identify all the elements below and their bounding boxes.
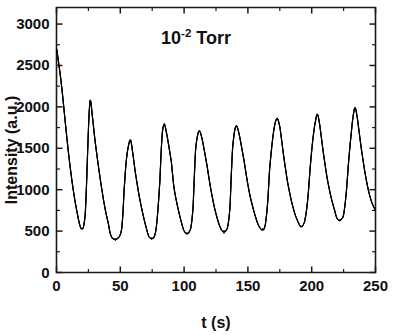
y-tick-label: 1500 (16, 139, 49, 156)
pressure-annotation: 10-2 Torr (161, 27, 231, 48)
x-axis-label: t (s) (201, 314, 230, 331)
y-tick-label: 2500 (16, 56, 49, 73)
oscillation-chart: 050100150200250 050010001500200025003000… (0, 0, 394, 335)
y-tick-label: 1000 (16, 181, 49, 198)
y-tick-label: 3000 (16, 15, 49, 32)
y-tick-label: 0 (41, 264, 49, 281)
y-tick-label: 500 (24, 222, 49, 239)
x-tick-label: 150 (235, 277, 260, 294)
y-axis-label: Intensity (a.u.) (3, 96, 20, 204)
figure-panel: 050100150200250 050010001500200025003000… (0, 0, 394, 335)
x-tick-label: 250 (363, 277, 388, 294)
y-tick-label: 2000 (16, 98, 49, 115)
x-tick-label: 200 (299, 277, 324, 294)
annotation-tail: Torr (191, 28, 231, 48)
x-tick-label: 100 (172, 277, 197, 294)
annotation-superscript: -2 (181, 27, 191, 39)
annotation-base: 10 (161, 28, 181, 48)
x-tick-label: 50 (112, 277, 129, 294)
x-tick-label: 0 (52, 277, 60, 294)
